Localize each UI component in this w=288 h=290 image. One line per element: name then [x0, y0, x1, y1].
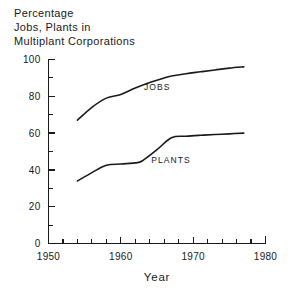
x-tick-label: 1970 [181, 251, 205, 262]
x-ticks-major-group [49, 237, 266, 244]
y-tick-label: 0 [35, 238, 41, 249]
x-tick-label: 1960 [109, 251, 133, 262]
y-tick-label: 100 [23, 54, 41, 65]
y-tick-label: 20 [29, 201, 41, 212]
x-tick-label: 1950 [37, 251, 61, 262]
x-tick-label: 1980 [254, 251, 278, 262]
series-line-jobs [77, 67, 243, 120]
plot-area: 020406080100 1950196019701980 JOBSPLANTS… [0, 0, 288, 290]
x-axis-title: Year [144, 271, 170, 283]
y-tick-labels-group: 020406080100 [23, 54, 41, 249]
series-label-plants: PLANTS [151, 155, 191, 165]
y-tick-label: 60 [29, 128, 41, 139]
x-tick-labels-group: 1950196019701980 [37, 251, 278, 262]
y-tick-label: 80 [29, 91, 41, 102]
y-tick-label: 40 [29, 165, 41, 176]
series-labels-group: JOBSPLANTS [144, 82, 191, 165]
x-ticks-minor-group [63, 239, 251, 244]
series-label-jobs: JOBS [144, 82, 171, 92]
chart-figure: Percentage Jobs, Plants in Multiplant Co… [0, 0, 288, 290]
